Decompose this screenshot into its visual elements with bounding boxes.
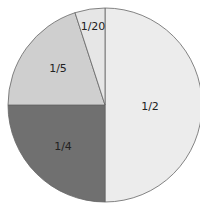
label-twentieth: 1/20 <box>81 20 106 33</box>
label-half: 1/2 <box>141 100 159 113</box>
slice-quarter <box>8 105 105 202</box>
label-quarter: 1/4 <box>54 140 72 153</box>
label-fifth: 1/5 <box>49 62 67 75</box>
pie-chart: 1/2 1/4 1/5 1/20 <box>0 0 200 210</box>
